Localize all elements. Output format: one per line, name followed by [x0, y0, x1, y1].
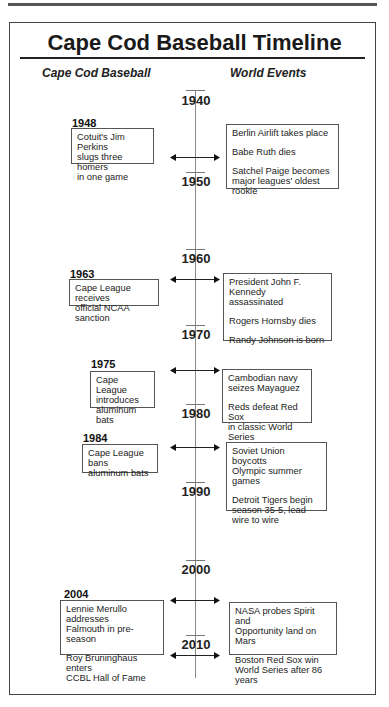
cape-cod-event-text: Cape League bans aluminum bats	[88, 448, 152, 478]
cape-cod-event-text: Cape League receives official NCAA sanct…	[75, 283, 153, 323]
decade-tick	[186, 172, 205, 173]
decade-label: 2010	[176, 637, 216, 652]
event-year: 1975	[91, 358, 115, 370]
column-header-cape-cod: Cape Cod Baseball	[42, 66, 151, 80]
event-year: 2004	[64, 588, 88, 600]
double-arrow-icon	[170, 275, 220, 284]
world-event-text: Soviet Union boycotts Olympic summer gam…	[232, 446, 321, 486]
world-event-text: NASA probes Spirit and Opportunity land …	[235, 606, 331, 646]
world-event-box: President John F. Kennedy assassinated R…	[223, 273, 332, 341]
decade-tick	[186, 249, 205, 250]
title-underline	[20, 57, 365, 59]
world-event-text: Randy Johnson is born	[229, 335, 326, 345]
cape-cod-event-box: Cape League bans aluminum bats	[82, 444, 158, 473]
event-year: 1984	[83, 432, 107, 444]
decade-label: 1970	[176, 327, 216, 342]
world-event-box: Cambodian navy seizes Mayaguez Reds defe…	[222, 369, 312, 423]
decade-label: 1980	[176, 406, 216, 421]
cape-cod-event-box: Cape League receives official NCAA sanct…	[69, 279, 159, 306]
top-rule	[8, 3, 377, 6]
world-event-text: Berlin Airlift takes place	[232, 128, 333, 138]
double-arrow-icon	[170, 366, 220, 375]
world-event-box: Soviet Union boycotts Olympic summer gam…	[226, 442, 327, 511]
decade-label: 1960	[176, 251, 216, 266]
world-event-text: Boston Red Sox win World Series after 86…	[235, 655, 331, 685]
decade-label: 1940	[176, 93, 216, 108]
column-header-world-events: World Events	[230, 66, 306, 80]
world-event-box: Berlin Airlift takes place Babe Ruth die…	[226, 124, 339, 189]
double-arrow-icon	[170, 651, 220, 660]
decade-tick	[186, 404, 205, 405]
decade-tick	[186, 90, 205, 91]
world-event-box: NASA probes Spirit and Opportunity land …	[229, 602, 337, 655]
double-arrow-icon	[170, 596, 220, 605]
cape-cod-event-text: Lennie Merullo addresses Falmouth in pre…	[66, 604, 158, 644]
world-event-text: Cambodian navy seizes Mayaguez	[228, 373, 306, 393]
decade-tick	[186, 482, 205, 483]
decade-label: 2000	[176, 562, 216, 577]
world-event-text: Reds defeat Red Sox in classic World Ser…	[228, 402, 306, 442]
world-event-text: Detroit Tigers begin season 35-5, lead w…	[232, 495, 321, 525]
world-event-text: Rogers Hornsby dies	[229, 316, 326, 326]
cape-cod-event-text: Cotuit's Jim Perkins slugs three homers …	[77, 132, 148, 182]
world-event-text: Babe Ruth dies	[232, 147, 333, 157]
double-arrow-icon	[170, 153, 220, 162]
decade-tick	[186, 560, 205, 561]
decade-tick	[186, 635, 205, 636]
cape-cod-event-text: Roy Bruninghaus enters CCBL Hall of Fame	[66, 653, 158, 683]
cape-cod-event-box: Cotuit's Jim Perkins slugs three homers …	[71, 128, 154, 164]
cape-cod-event-box: Lennie Merullo addresses Falmouth in pre…	[60, 600, 164, 655]
decade-label: 1990	[176, 484, 216, 499]
world-event-text: Satchel Paige becomes major leagues' old…	[232, 166, 333, 196]
page-title: Cape Cod Baseball Timeline	[0, 30, 389, 56]
decade-label: 1950	[176, 174, 216, 189]
world-event-text: President John F. Kennedy assassinated	[229, 277, 326, 307]
cape-cod-event-box: Cape League introduces aluminum bats	[90, 371, 155, 408]
double-arrow-icon	[170, 443, 220, 452]
decade-tick	[186, 325, 205, 326]
cape-cod-event-text: Cape League introduces aluminum bats	[96, 375, 149, 425]
